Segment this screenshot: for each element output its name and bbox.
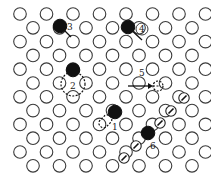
lattice-atom: [106, 77, 119, 90]
lattice-atom: [14, 91, 27, 104]
defect-atom-2: [66, 63, 80, 77]
lattice-atom: [146, 63, 159, 76]
lattice-atom: [159, 22, 172, 35]
lattice-atom: [146, 8, 159, 21]
lattice-atom: [53, 49, 66, 62]
lattice-diagram: 123456: [0, 0, 211, 185]
lattice-atom: [53, 77, 66, 90]
lattice-atom: [199, 146, 211, 159]
lattice-atom: [199, 35, 211, 48]
lattice-atom: [14, 118, 27, 131]
lattice-atom: [80, 160, 93, 173]
lattice-atom: [199, 8, 211, 21]
defect-label-2: 2: [70, 81, 76, 91]
lattice-atom: [93, 8, 106, 21]
lattice-atom: [186, 104, 199, 117]
lattice-atom: [186, 132, 199, 145]
lattice-atom: [93, 146, 106, 159]
defect-atom-4: [121, 20, 135, 34]
defect-5-arrowhead-icon: [148, 83, 153, 89]
lattice-atom: [93, 35, 106, 48]
lattice-atom: [120, 35, 133, 48]
lattice-atom: [173, 35, 186, 48]
lattice-atom: [67, 146, 80, 159]
lattice-atom: [106, 160, 119, 173]
lattice-atom: [80, 132, 93, 145]
lattice-atom: [133, 104, 146, 117]
lattice-atom: [14, 146, 27, 159]
defect-atom-1: [108, 105, 122, 119]
lattice-atom: [173, 146, 186, 159]
lattice-atom: [199, 63, 211, 76]
defect-atom-3: [53, 19, 67, 33]
lattice-atom: [40, 35, 53, 48]
lattice-atom: [67, 8, 80, 21]
lattice-atom: [159, 132, 172, 145]
lattice-atom: [120, 63, 133, 76]
lattice-atom: [80, 49, 93, 62]
lattice-atom: [53, 104, 66, 117]
defect-label-4: 4: [139, 24, 145, 34]
lattice-atom: [67, 91, 80, 104]
lattice-atom: [27, 77, 40, 90]
lattice-atom: [93, 63, 106, 76]
lattice-atoms: [14, 8, 211, 172]
lattice-atom: [186, 77, 199, 90]
lattice-atom: [133, 160, 146, 173]
defect-label-1: 1: [112, 122, 118, 132]
lattice-atom: [14, 35, 27, 48]
defect-atom-6: [141, 126, 155, 140]
lattice-atom: [186, 49, 199, 62]
lattice-atom: [106, 49, 119, 62]
lattice-atom: [27, 132, 40, 145]
lattice-atom: [67, 118, 80, 131]
defect-label-5: 5: [139, 68, 145, 78]
lattice-atom: [67, 35, 80, 48]
lattice-atom: [173, 63, 186, 76]
lattice-atom: [53, 132, 66, 145]
lattice-atom: [40, 146, 53, 159]
lattice-atom: [199, 91, 211, 104]
lattice-atom: [27, 160, 40, 173]
lattice-atom: [80, 77, 93, 90]
lattice-atom: [120, 118, 133, 131]
lattice-atom: [40, 8, 53, 21]
lattice-atom: [133, 77, 146, 90]
lattice-atom: [14, 8, 27, 21]
lattice-atom: [27, 49, 40, 62]
lattice-atom: [186, 22, 199, 35]
lattice-atom: [40, 63, 53, 76]
lattice-atom: [40, 91, 53, 104]
lattice-atom: [186, 160, 199, 173]
lattice-atom: [80, 104, 93, 117]
lattice-atom: [199, 118, 211, 131]
lattice-atom: [14, 63, 27, 76]
lattice-atom: [159, 77, 172, 90]
lattice-atom: [146, 91, 159, 104]
defect-label-6: 6: [150, 141, 156, 151]
lattice-atom: [106, 132, 119, 145]
lattice-atom: [133, 49, 146, 62]
lattice-atom: [27, 22, 40, 35]
lattice-atom: [80, 22, 93, 35]
lattice-atom: [120, 8, 133, 21]
lattice-atom: [53, 160, 66, 173]
lattice-atom: [159, 49, 172, 62]
lattice-atom: [173, 118, 186, 131]
lattice-atom: [159, 160, 172, 173]
lattice-atom: [27, 104, 40, 117]
lattice-atom: [120, 91, 133, 104]
defect-label-3: 3: [67, 22, 73, 32]
lattice-atom: [93, 91, 106, 104]
lattice-atom: [106, 22, 119, 35]
lattice-atom: [146, 35, 159, 48]
lattice-atom: [40, 118, 53, 131]
lattice-atom: [173, 8, 186, 21]
